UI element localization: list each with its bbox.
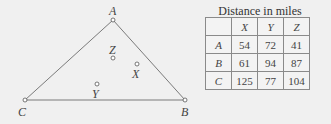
cell: 104 (284, 72, 310, 90)
point-a (111, 18, 115, 22)
label-y: Y (92, 87, 100, 101)
cell: 94 (258, 54, 284, 72)
cell: 77 (258, 72, 284, 90)
cell: 87 (284, 54, 310, 72)
table-header-row: X Y Z (206, 18, 310, 36)
cell: 61 (232, 54, 258, 72)
table-row: B 61 94 87 (206, 54, 310, 72)
point-x (135, 62, 139, 66)
table-row: C 125 77 104 (206, 72, 310, 90)
header-y: Y (258, 18, 284, 36)
distance-table: X Y Z A 54 72 41 B 61 94 87 C 125 77 104 (205, 17, 310, 90)
point-y (95, 82, 99, 86)
triangle-abc (25, 20, 185, 100)
label-a: A (108, 4, 117, 18)
cell: 72 (258, 36, 284, 54)
row-label: C (206, 72, 232, 90)
point-c (23, 98, 27, 102)
triangle-diagram: A B C Z X Y (0, 0, 200, 124)
label-z: Z (109, 43, 116, 57)
point-b (183, 98, 187, 102)
cell: 125 (232, 72, 258, 90)
cell: 41 (284, 36, 310, 54)
header-corner (206, 18, 232, 36)
row-label: A (206, 36, 232, 54)
label-c: C (18, 105, 27, 119)
label-b: B (181, 105, 189, 119)
table-row: A 54 72 41 (206, 36, 310, 54)
cell: 54 (232, 36, 258, 54)
header-z: Z (284, 18, 310, 36)
label-x: X (131, 67, 140, 81)
row-label: B (206, 54, 232, 72)
header-x: X (232, 18, 258, 36)
